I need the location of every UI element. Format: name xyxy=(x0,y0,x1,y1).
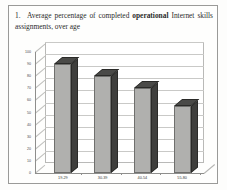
bar-chart: 0102030405060708090100 19-2930-3940-5455… xyxy=(17,39,211,179)
bar-front-face xyxy=(94,76,111,173)
caption-text-emphasis: operational xyxy=(132,11,168,20)
bar-side-face xyxy=(71,58,78,173)
x-axis-tick xyxy=(81,173,82,175)
x-axis-tick-label: 40-54 xyxy=(128,176,157,181)
gridline xyxy=(45,42,204,43)
depth-tick xyxy=(35,104,46,113)
x-axis-tick-label: 19-29 xyxy=(48,176,77,181)
bar-side-face xyxy=(111,70,118,173)
y-axis-tick-label: 90 xyxy=(17,62,31,66)
depth-tick xyxy=(35,128,46,137)
bar-column xyxy=(94,76,111,173)
bar-side-face xyxy=(191,101,198,173)
depth-tick xyxy=(35,44,46,53)
figure-page: 1.Average percentage of completed operat… xyxy=(0,0,227,190)
y-axis-tick-label: 10 xyxy=(17,159,31,163)
caption-text-part-1: Average percentage of completed xyxy=(27,11,132,20)
y-axis-tick-label: 70 xyxy=(17,86,31,90)
y-axis-line xyxy=(35,52,36,173)
gridline xyxy=(45,54,204,55)
depth-tick xyxy=(35,153,46,162)
depth-tick xyxy=(35,56,46,65)
bar-side-face xyxy=(151,82,158,173)
floor-right-edge xyxy=(204,164,215,174)
depth-tick xyxy=(35,68,46,77)
x-axis-tick xyxy=(121,173,122,175)
x-axis-tick xyxy=(160,173,161,175)
figure-caption: 1.Average percentage of completed operat… xyxy=(15,11,213,32)
y-axis-tick-label: 30 xyxy=(17,135,31,139)
y-axis-tick-label: 20 xyxy=(17,147,31,151)
bar-column xyxy=(54,64,71,173)
bar-front-face xyxy=(134,88,151,173)
depth-tick xyxy=(35,80,46,89)
figure-number: 1. xyxy=(15,11,27,22)
bar-column xyxy=(134,88,151,173)
bar-front-face xyxy=(174,106,191,173)
bar-front-face xyxy=(54,64,71,173)
y-axis-tick-label: 80 xyxy=(17,74,31,78)
x-axis-line xyxy=(35,173,204,174)
x-axis-tick xyxy=(200,173,201,175)
y-axis-tick-label: 40 xyxy=(17,123,31,127)
y-axis-tick-label: 100 xyxy=(17,50,31,54)
depth-tick xyxy=(35,92,46,101)
y-axis-tick-label: 50 xyxy=(17,111,31,115)
depth-tick xyxy=(35,116,46,125)
figure-frame: 1.Average percentage of completed operat… xyxy=(8,5,218,184)
depth-tick xyxy=(35,141,46,150)
y-axis-tick-label: 0 xyxy=(17,171,31,175)
x-axis-tick-label: 30-39 xyxy=(88,176,117,181)
x-axis-tick-label: 55-80 xyxy=(168,176,197,181)
bar-column xyxy=(174,106,191,173)
y-axis-tick-label: 60 xyxy=(17,98,31,102)
